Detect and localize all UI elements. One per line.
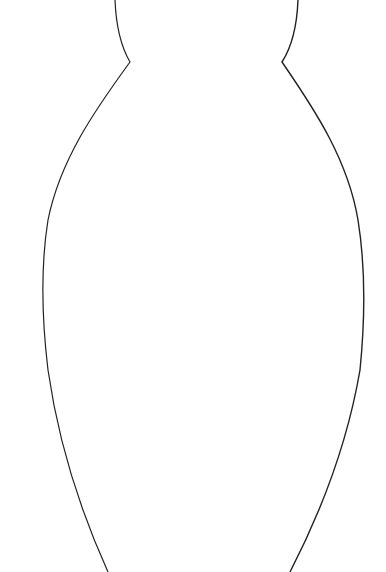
vase-drawing-canvas [0,0,386,572]
vase-left-contour [43,0,130,572]
vase-outline-icon [0,0,386,572]
vase-right-contour [282,0,364,572]
